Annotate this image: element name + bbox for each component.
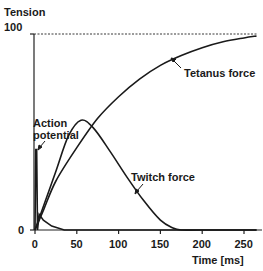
x-tick-label-200: 200 — [193, 238, 211, 250]
x-axis-title: Time [ms] — [192, 254, 244, 266]
y-tick-100: 100 — [4, 21, 22, 33]
y-tick-0: 0 — [18, 224, 24, 236]
x-tick-label-50: 50 — [70, 238, 82, 250]
x-tick-label-100: 100 — [109, 238, 127, 250]
action-potential-label-line1: Action — [33, 117, 67, 129]
y-axis-title: Tension — [4, 6, 45, 18]
action-potential-label-line2: potential — [33, 129, 79, 141]
tetanus-arrowhead-icon — [171, 58, 176, 62]
twitch-force-label: Twitch force — [131, 171, 195, 183]
x-tick-label-150: 150 — [151, 238, 169, 250]
x-tick-label-250: 250 — [234, 238, 252, 250]
tetanus-force-label: Tetanus force — [184, 67, 255, 79]
x-tick-label-0: 0 — [32, 238, 38, 250]
